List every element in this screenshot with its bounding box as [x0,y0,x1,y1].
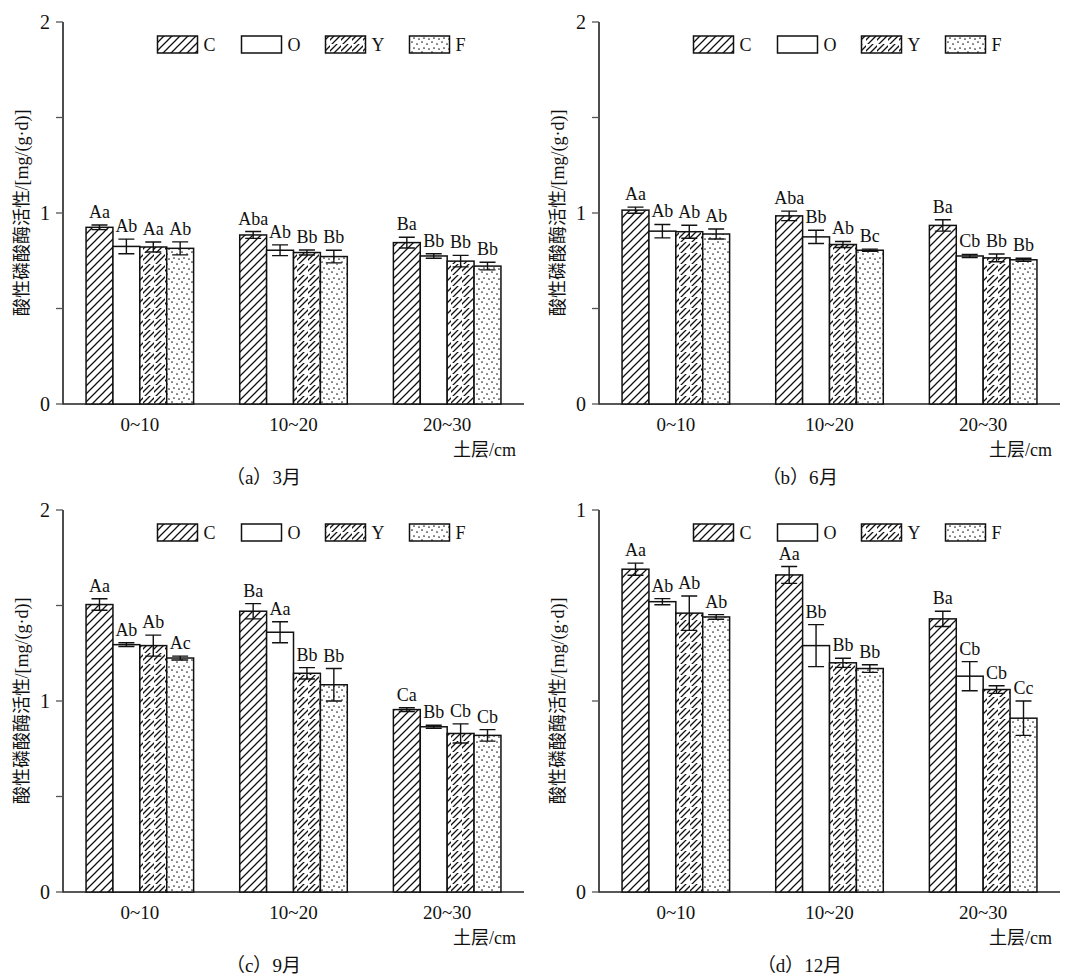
category-label: 20~30 [423,414,471,435]
significance-label: Ba [933,588,953,608]
significance-label: Bb [423,231,444,251]
bar-Y-0~10 [140,646,167,892]
panel-caption: （a）3月 [226,467,301,488]
x-axis-title: 土层/cm [989,440,1052,460]
bars-layer: AaAbAbAb0~10AaBbBbBb10~20BaCbCbCc20~30 [622,540,1037,923]
y-axis-ticks: 012 [40,11,63,415]
significance-label: Bb [450,232,471,252]
bar-Y-20~30 [983,690,1010,892]
bar-Y-10~20 [294,253,321,404]
bar-Y-10~20 [830,245,857,404]
bar-O-10~20 [803,237,830,404]
significance-label: Cb [959,639,980,659]
significance-label: Ca [397,685,417,705]
y-axis-title: 酸性磷酸酶活性/[mg/(g·d)] [548,110,569,317]
significance-label: Aa [779,544,800,564]
significance-label: Cb [986,663,1007,683]
bar-C-10~20 [240,235,267,404]
bar-Y-0~10 [676,613,703,892]
chart-panel-b: 012酸性磷酸酶活性/[mg/(g·d)]AaAbAbAb0~10AbaBbAb… [536,0,1072,488]
x-axis-title: 土层/cm [453,928,516,948]
bar-C-20~30 [393,710,420,892]
legend: COYF [694,523,1002,543]
significance-label: Cb [959,231,980,251]
y-axis-ticks: 012 [40,499,63,903]
legend-swatch-O [242,524,282,541]
y-axis-ticks: 012 [576,11,599,415]
bar-C-20~30 [929,619,956,892]
bar-O-10~20 [267,632,294,892]
significance-label: Aa [89,202,110,222]
significance-label: Ab [115,620,137,640]
significance-label: Aba [774,188,804,208]
legend-swatch-C [694,36,734,53]
legend-swatch-C [158,524,198,541]
significance-label: Ab [678,573,700,593]
significance-label: Ab [142,612,164,632]
significance-label: Cb [450,701,471,721]
category-label: 0~10 [656,902,695,923]
panel-caption: （c）9月 [226,955,301,976]
bar-Y-20~30 [983,258,1010,404]
significance-label: Bb [296,645,317,665]
significance-label: Ab [705,206,727,226]
chart-panel-d: 01酸性磷酸酶活性/[mg/(g·d)]AaAbAbAb0~10AaBbBbBb… [536,488,1072,976]
significance-label: Bb [423,702,444,722]
y-axis-title: 酸性磷酸酶活性/[mg/(g·d)] [12,598,33,805]
legend: COYF [694,35,1002,55]
bar-C-10~20 [776,216,803,404]
category-label: 0~10 [120,414,159,435]
bar-C-0~10 [622,569,649,892]
significance-label: Aba [238,209,268,229]
bar-C-20~30 [393,243,420,404]
figure-container: 012酸性磷酸酶活性/[mg/(g·d)]AaAbAaAb0~10AbaAbBb… [0,0,1072,976]
y-axis-title: 酸性磷酸酶活性/[mg/(g·d)] [12,110,33,317]
significance-label: Bb [806,602,827,622]
panel-caption: （b）6月 [762,467,838,488]
significance-label: Ab [678,202,700,222]
bar-O-0~10 [113,246,140,404]
significance-label: Ba [933,197,953,217]
bar-F-10~20 [320,257,347,404]
bar-C-0~10 [622,210,649,404]
legend-label-C: C [204,35,216,55]
bar-O-0~10 [113,645,140,892]
legend-label-Y: Y [908,523,921,543]
y-tick-label: 1 [40,690,50,712]
significance-label: Ab [115,216,137,236]
legend-swatch-F [410,36,450,53]
significance-label: Cb [477,707,498,727]
category-label: 10~20 [805,414,853,435]
legend-label-C: C [204,523,216,543]
significance-label: Ab [651,576,673,596]
bar-O-0~10 [649,231,676,404]
significance-label: Ab [832,218,854,238]
bar-Y-10~20 [294,673,321,892]
bar-O-20~30 [956,256,983,404]
significance-label: Aa [143,219,164,239]
legend-label-Y: Y [372,523,385,543]
y-tick-label: 2 [576,11,586,33]
category-label: 10~20 [269,414,317,435]
significance-label: Aa [625,540,646,560]
significance-label: Ab [269,222,291,242]
significance-label: Bb [323,646,344,666]
category-label: 0~10 [120,902,159,923]
chart-panel-c: 012酸性磷酸酶活性/[mg/(g·d)]AaAbAbAc0~10BaAaBbB… [0,488,536,976]
legend-label-C: C [740,35,752,55]
bar-O-20~30 [420,727,447,892]
legend-label-Y: Y [908,35,921,55]
y-tick-label: 2 [40,11,50,33]
bar-F-20~30 [474,735,501,892]
legend-swatch-Y [862,524,902,541]
legend-swatch-F [946,36,986,53]
legend-label-O: O [824,523,837,543]
bar-O-20~30 [420,256,447,404]
bars-layer: AaAbAbAc0~10BaAaBbBb10~20CaBbCbCb20~30 [86,576,501,923]
significance-label: Ab [651,201,673,221]
legend: COYF [158,523,466,543]
y-tick-label: 1 [40,202,50,224]
bar-F-10~20 [320,685,347,892]
significance-label: Ba [243,581,263,601]
bar-Y-0~10 [676,232,703,404]
